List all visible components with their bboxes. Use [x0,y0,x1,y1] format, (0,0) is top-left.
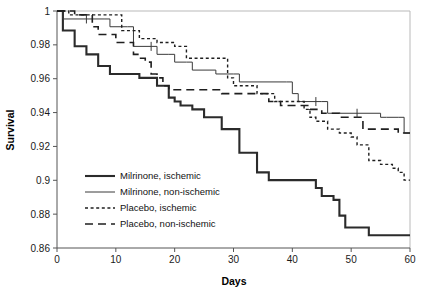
x-tick-label: 10 [110,254,122,265]
x-tick-label: 40 [287,254,299,265]
x-tick-label: 30 [228,254,240,265]
axis-ticks [53,11,410,252]
y-tick-label: 0.88 [31,209,51,220]
legend-label: Milrinone, non-ischemic [120,186,220,197]
chart-legend: Milrinone, ischemicMilrinone, non-ischem… [85,170,220,229]
survival-curve [57,11,410,180]
y-tick-label: 0.96 [31,73,51,84]
survival-curves [57,11,410,235]
y-tick-label: 0.9 [36,175,50,186]
y-tick-label: 0.86 [31,243,51,254]
x-tick-label: 20 [169,254,181,265]
x-tick-label: 50 [346,254,358,265]
y-axis-title: Survival [4,109,16,150]
x-tick-label: 0 [54,254,60,265]
x-axis-title: Days [221,275,246,287]
kaplan-meier-plot: 0.860.880.90.920.940.960.981010203040506… [0,0,423,295]
survival-curve [57,11,410,235]
axis-tick-labels: 0.860.880.90.920.940.960.981010203040506… [31,6,416,266]
legend-label: Milrinone, ischemic [120,170,201,181]
y-tick-label: 0.98 [31,39,51,50]
legend-label: Placebo, ischemic [120,202,197,213]
y-tick-label: 0.92 [31,141,51,152]
y-tick-label: 1 [44,6,50,17]
survival-chart-figure: 0.860.880.90.920.940.960.981010203040506… [0,0,423,295]
legend-label: Placebo, non-ischemic [120,218,216,229]
y-tick-label: 0.94 [31,107,51,118]
x-tick-label: 60 [404,254,416,265]
